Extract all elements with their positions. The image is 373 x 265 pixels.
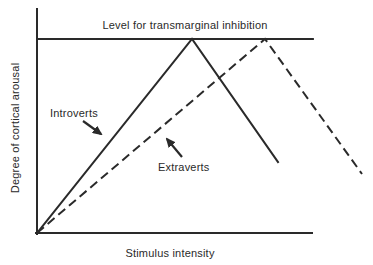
extraverts-curve [37, 39, 362, 233]
extraverts-arrow-icon [167, 139, 182, 157]
arousal-figure: Level for transmarginal inhibition Intro… [0, 0, 373, 265]
x-axis-label: Stimulus intensity [125, 247, 214, 259]
inhibition-level-label: Level for transmarginal inhibition [102, 19, 267, 31]
arousal-chart: Level for transmarginal inhibition Intro… [0, 0, 373, 265]
introverts-label: Introverts [50, 107, 98, 119]
introverts-curve [37, 39, 278, 233]
y-axis-label: Degree of cortical arousal [9, 63, 21, 194]
extraverts-label: Extraverts [158, 161, 210, 173]
introverts-arrow-icon [83, 121, 101, 134]
